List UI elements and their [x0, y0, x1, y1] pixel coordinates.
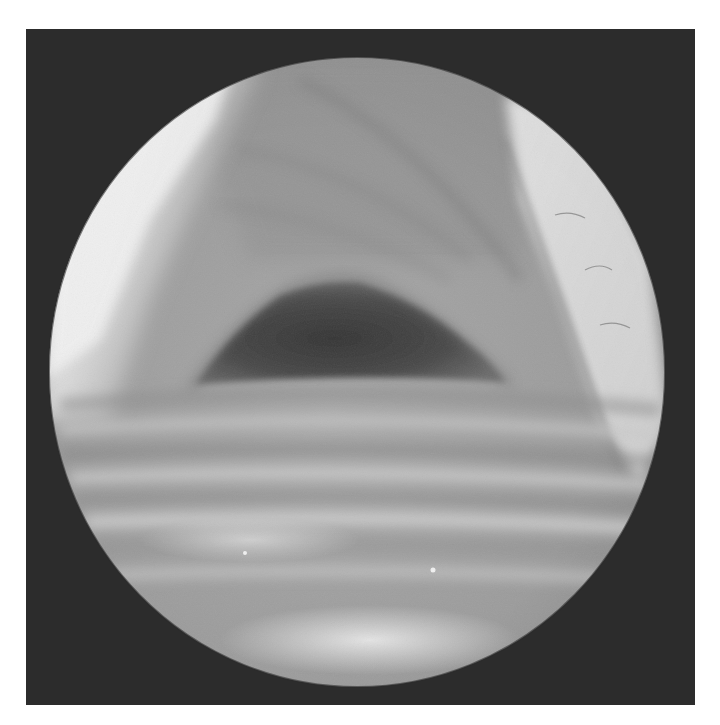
endoscopic-image [0, 0, 720, 725]
field-of-view [40, 50, 680, 700]
